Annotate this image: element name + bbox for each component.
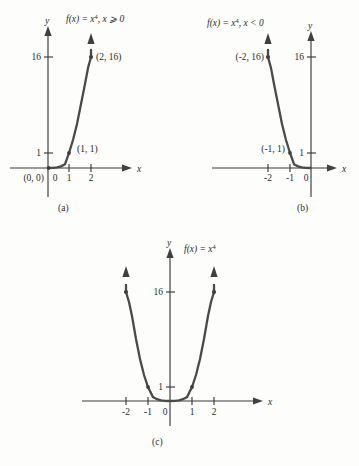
x-tick-label-0: 0 [163,407,168,417]
x-axis-arrow [253,398,263,405]
x-axis-arrow [122,165,132,172]
panel-c: y x 1 16 -2 -1 0 1 2 f(x) = x4 [70,228,300,466]
y-axis-arrow [307,31,314,41]
point-label-2-16: (2, 16) [96,52,121,63]
curve-c-right-dot [212,290,216,294]
y-tick-label-16: 16 [32,52,42,62]
function-label-a: f(x) = x4, x ⩾ 0 [66,13,124,26]
x-axis-arrow [327,165,337,172]
function-label-b: f(x) = x4, x < 0 [207,17,264,30]
y-axis-arrow [166,248,173,258]
function-label-b-suffix: , x < 0 [239,18,264,28]
panel-b-plot: y x 1 16 -2 -1 0 (-2, 16) (-1, 1) f(x) =… [179,0,359,228]
function-label-c: f(x) = x4 [184,243,217,256]
function-label-a-suffix: , x ⩾ 0 [98,14,125,24]
y-tick-label-1: 1 [158,382,163,392]
caption-a: (a) [58,203,69,213]
curve-c-left-dot-1 [146,385,150,389]
y-tick-label-1: 1 [36,148,41,158]
x-tick-label-minus2: -2 [122,407,130,417]
figure-root: y x 1 16 0 1 2 (0, 0) (1, 1) (2, 16) f(x… [0,0,359,466]
panel-c-plot: y x 1 16 -2 -1 0 1 2 f(x) = x4 [70,228,300,466]
curve-b-arrow [264,33,271,44]
x-tick-label-2: 2 [212,407,217,417]
x-tick-label-1: 1 [190,407,195,417]
y-tick-label-1: 1 [299,148,304,158]
y-axis-arrow [44,26,51,36]
curve-a-arrow [87,33,94,44]
curve-c-right [171,285,215,401]
function-label-b-prefix: f(x) = x [207,18,236,29]
panel-b: y x 1 16 -2 -1 0 (-2, 16) (-1, 1) f(x) =… [179,0,359,228]
point-label-minus2-16: (-2, 16) [236,52,265,63]
x-axis-label: x [267,397,273,407]
curve-c-left-dot [124,290,128,294]
point-dot-minus1-1 [288,151,292,155]
point-label-0-0: (0, 0) [23,173,44,184]
caption-b: (b) [297,203,308,213]
point-dot-minus2-16 [266,55,270,59]
y-axis-label: y [307,21,313,31]
point-label-1-1: (1, 1) [77,144,98,155]
y-axis-label: y [44,16,50,26]
point-dot-1-1 [67,151,71,155]
x-tick-label-minus1: -1 [286,173,294,183]
point-label-minus1-1: (-1, 1) [261,144,285,155]
x-tick-label-minus2: -2 [264,173,272,183]
panel-a-plot: y x 1 16 0 1 2 (0, 0) (1, 1) (2, 16) f(x… [0,0,180,228]
x-tick-label-1: 1 [67,173,72,183]
x-tick-label-0: 0 [53,173,58,183]
curve-c-left-arrow [122,266,129,277]
panel-a: y x 1 16 0 1 2 (0, 0) (1, 1) (2, 16) f(x… [0,0,180,228]
curve-c-right-arrow [210,266,217,277]
x-tick-label-2: 2 [89,173,94,183]
point-dot-2-16 [89,55,93,59]
y-tick-label-16: 16 [295,52,305,62]
function-label-c-prefix: f(x) = x [184,244,213,255]
point-dot-0-0 [47,166,51,170]
curve-c-right-dot-1 [190,385,194,389]
function-label-a-prefix: f(x) = x [66,14,95,25]
x-axis-label: x [136,164,142,174]
y-tick-label-16: 16 [154,287,164,297]
function-label-c-exponent: 4 [213,243,217,250]
x-axis-label: x [341,164,347,174]
caption-c: (c) [152,437,163,447]
x-tick-label-0: 0 [304,173,309,183]
y-axis-label: y [166,238,172,248]
x-tick-label-minus1: -1 [144,407,152,417]
